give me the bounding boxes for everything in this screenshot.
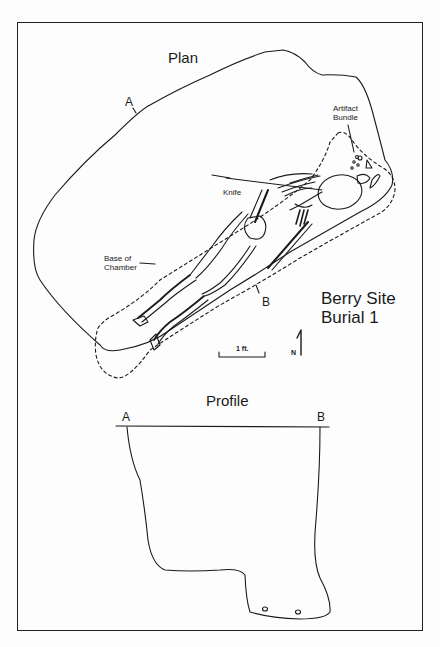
plan-point-a: A (125, 96, 133, 108)
artifact-bundle-line1: Artifact (333, 104, 358, 113)
base-of-chamber-label: Base of Chamber (104, 254, 137, 272)
profile-title: Profile (206, 393, 249, 408)
north-arrow (297, 330, 301, 355)
base-of-chamber-line2: Chamber (104, 263, 137, 272)
profile-outline (127, 427, 330, 619)
site-title: Berry Site Burial 1 (321, 290, 396, 327)
site-title-line1: Berry Site (321, 290, 396, 309)
scale-bar-label: 1 ft. (236, 345, 248, 352)
knife-label: Knife (223, 188, 241, 197)
site-title-line2: Burial 1 (321, 309, 396, 328)
plan-title: Plan (168, 50, 198, 65)
artifact-bundle-line2: Bundle (333, 113, 358, 122)
scale-bar (219, 352, 265, 357)
plan-point-b: B (262, 296, 270, 308)
profile-end-b: B (317, 411, 325, 423)
artifact-bundle-label: Artifact Bundle (333, 104, 358, 122)
north-arrow-label: N (291, 349, 296, 356)
profile-end-a: A (122, 411, 130, 423)
base-of-chamber-outline (95, 132, 395, 378)
base-of-chamber-line1: Base of (104, 254, 137, 263)
